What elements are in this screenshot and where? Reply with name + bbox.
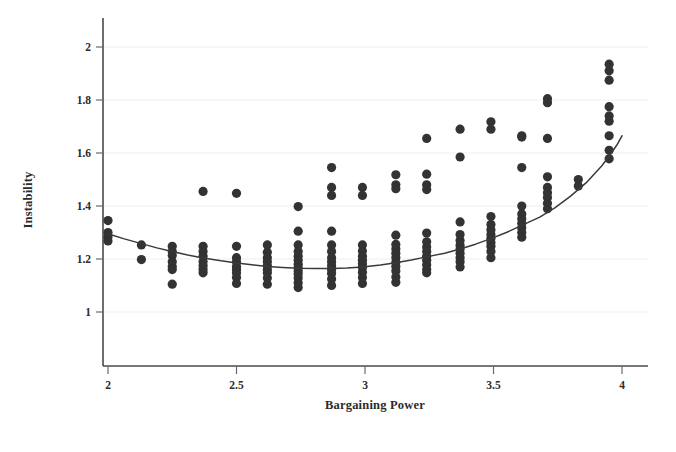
data-point <box>294 202 303 211</box>
data-point <box>232 189 241 198</box>
data-point <box>168 280 177 289</box>
data-point <box>168 265 177 274</box>
data-point <box>327 227 336 236</box>
y-axis-title: Instability <box>21 171 35 229</box>
x-tick-label: 2.5 <box>229 379 244 391</box>
data-point <box>391 278 400 287</box>
y-tick-label: 2 <box>85 41 91 53</box>
data-point <box>455 217 464 226</box>
data-point <box>232 242 241 251</box>
scatter-plot-svg: 22.533.54 11.21.41.61.82 Bargaining Powe… <box>0 0 676 452</box>
data-point <box>391 170 400 179</box>
data-point <box>517 201 526 210</box>
y-tick-label: 1 <box>85 306 91 318</box>
data-point <box>543 172 552 181</box>
data-point <box>358 279 367 288</box>
data-point <box>327 191 336 200</box>
y-tick-label: 1.6 <box>77 147 92 159</box>
y-tick-label: 1.4 <box>77 200 92 212</box>
data-point <box>605 131 614 140</box>
data-point <box>422 185 431 194</box>
data-point <box>232 279 241 288</box>
data-point <box>517 163 526 172</box>
data-point <box>605 66 614 75</box>
data-point <box>422 170 431 179</box>
data-point <box>422 228 431 237</box>
y-tick-label: 1.2 <box>77 253 92 265</box>
data-point <box>327 163 336 172</box>
data-point <box>103 236 112 245</box>
data-point <box>517 233 526 242</box>
data-point <box>422 268 431 277</box>
data-point <box>455 152 464 161</box>
y-tick-label: 1.8 <box>77 94 92 106</box>
x-tick-label: 3.5 <box>486 379 501 391</box>
data-point <box>455 125 464 134</box>
x-tick-label: 4 <box>619 379 625 391</box>
data-point <box>198 187 207 196</box>
data-point <box>137 255 146 264</box>
x-tick-label: 3 <box>362 379 368 391</box>
data-point <box>455 262 464 271</box>
data-point <box>422 134 431 143</box>
data-point <box>486 212 495 221</box>
data-point <box>605 117 614 126</box>
data-point <box>391 184 400 193</box>
x-tick-label: 2 <box>105 379 111 391</box>
data-point <box>486 253 495 262</box>
data-point <box>294 283 303 292</box>
chart-figure: 22.533.54 11.21.41.61.82 Bargaining Powe… <box>0 0 676 452</box>
data-point <box>517 133 526 142</box>
data-point <box>263 280 272 289</box>
data-point <box>294 227 303 236</box>
data-point <box>543 98 552 107</box>
data-point <box>358 191 367 200</box>
data-point <box>543 134 552 143</box>
data-point <box>103 216 112 225</box>
data-point <box>358 183 367 192</box>
data-point <box>327 183 336 192</box>
chart-background <box>0 0 676 452</box>
x-axis-title: Bargaining Power <box>325 398 425 412</box>
data-point <box>391 231 400 240</box>
data-point <box>605 102 614 111</box>
data-point <box>605 76 614 85</box>
data-point <box>327 281 336 290</box>
data-point <box>486 125 495 134</box>
data-point <box>198 268 207 277</box>
